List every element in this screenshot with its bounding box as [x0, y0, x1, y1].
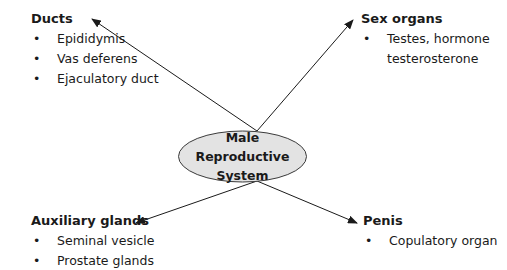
node-title: Auxiliary glands: [31, 211, 154, 231]
center-label-line1: Male Reproductive: [178, 128, 307, 166]
node-ducts: Ducts Epididymis Vas deferens Ejaculator…: [31, 9, 159, 89]
list-item: Seminal vesicle: [31, 231, 154, 251]
list-item: Vas deferens: [31, 49, 159, 69]
list-item-continuation: testerosterone: [361, 49, 490, 69]
node-title: Penis: [363, 211, 498, 231]
list-item: Ejaculatory duct: [31, 69, 159, 89]
list-item: Copulatory organ: [363, 231, 498, 251]
list-item: Epididymis: [31, 29, 159, 49]
list-item: Testes, hormone: [361, 29, 490, 49]
node-sex-organs: Sex organs Testes, hormone testerosteron…: [361, 9, 490, 69]
node-title: Sex organs: [361, 9, 490, 29]
arrow-to-sex-organs: [257, 20, 353, 131]
node-penis: Penis Copulatory organ: [363, 211, 498, 251]
center-label-line2: System: [178, 166, 307, 185]
node-auxiliary-glands: Auxiliary glands Seminal vesicle Prostat…: [31, 211, 154, 270]
arrow-to-penis: [257, 181, 357, 223]
center-label: Male Reproductive System: [178, 131, 307, 182]
list-item: Prostate glands: [31, 251, 154, 270]
node-title: Ducts: [31, 9, 159, 29]
